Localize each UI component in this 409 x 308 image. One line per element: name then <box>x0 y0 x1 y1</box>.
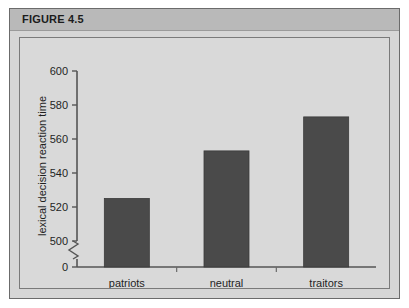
y-tick-label: 500 <box>50 235 68 247</box>
bar-chart: lexical decision reaction time 600580560… <box>20 38 389 288</box>
y-tick-label: 540 <box>50 167 68 179</box>
bar-series <box>104 117 348 267</box>
y-tick-label: 580 <box>50 99 68 111</box>
y-tick-label: 600 <box>50 65 68 77</box>
category-label: neutral <box>210 277 244 288</box>
bar <box>304 117 349 267</box>
y-tick-label: 520 <box>50 201 68 213</box>
y-tick-label: 560 <box>50 133 68 145</box>
bar <box>104 199 149 268</box>
figure-title: FIGURE 4.5 <box>22 13 84 25</box>
y-tick-label: 0 <box>62 261 68 273</box>
figure-card: FIGURE 4.5 lexical decision reaction tim… <box>9 8 400 299</box>
axis-break-marker <box>69 241 78 259</box>
bar <box>204 151 249 267</box>
x-axis-category-labels: patriotsneutraltraitors <box>109 277 344 288</box>
y-axis-title: lexical decision reaction time <box>36 96 48 236</box>
chart-plot-area: lexical decision reaction time 600580560… <box>19 37 390 289</box>
y-axis-title-text: lexical decision reaction time <box>36 96 48 236</box>
category-label: patriots <box>109 277 146 288</box>
category-label: traitors <box>309 277 343 288</box>
y-axis-ticks: 6005805605405205000 <box>50 65 77 273</box>
